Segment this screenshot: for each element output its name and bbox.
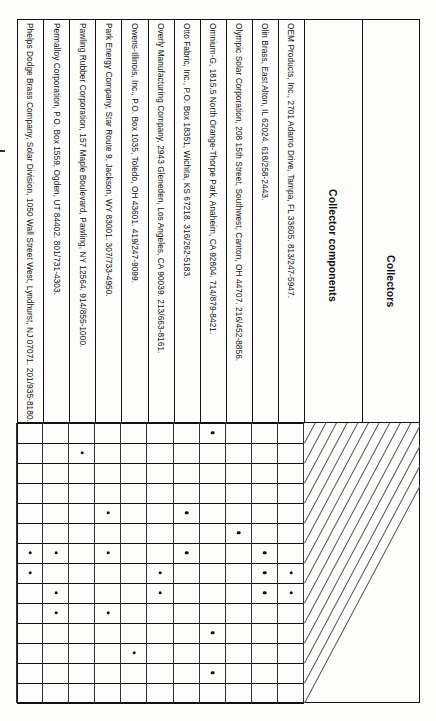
- grid-column-line: [17, 643, 304, 644]
- company-name-and-address: Otto Fabric, Inc., P.O. Box 18351, Wichi…: [182, 19, 192, 278]
- matrix-mark-dot: [28, 571, 31, 574]
- table-row: Pawling Rubber Corporation, 157 Maple Bo…: [69, 19, 95, 423]
- matrix-mark-dot: [159, 571, 162, 574]
- matrix-mark-dot: [81, 451, 84, 454]
- grid-row-line: [68, 423, 69, 703]
- company-name-and-address: Pawling Rubber Corporation, 157 Maple Bo…: [78, 19, 88, 347]
- matrix-mark-dot: [237, 531, 240, 534]
- grid-column-line: [17, 463, 304, 464]
- diagonal-column-headers: reflectors, Fresnel lenses, heliostatsse…: [304, 423, 420, 703]
- matrix-mark-dot: [159, 591, 162, 594]
- table-row: OEM Products, Inc., 2701 Adamo Drive, Ta…: [278, 19, 304, 423]
- matrix-mark-dot: [263, 591, 266, 594]
- matrix-mark-dot: [211, 431, 214, 434]
- scanned-page: Collectors Collector components OEM Prod…: [0, 0, 436, 721]
- matrix-mark-dot: [133, 651, 136, 654]
- grid-column-line: [17, 483, 304, 484]
- matrix-mark-dot: [54, 611, 57, 614]
- table-row: Olin Brass, East Alton, IL 62024. 618/25…: [252, 19, 278, 423]
- grid-column-line: [17, 663, 304, 664]
- grid-row-line: [199, 423, 200, 703]
- table-row: Park Energy Company, Star Route 9, Jacks…: [95, 19, 121, 423]
- grid-row-line: [42, 423, 43, 703]
- matrix-mark-dot: [107, 511, 110, 514]
- matrix-mark-dot: [289, 571, 292, 574]
- company-name-and-address: Olin Brass, East Alton, IL 62024. 618/25…: [260, 19, 270, 200]
- table-row: Phelps Dodge Brass Company, Solar Divisi…: [17, 19, 43, 423]
- collector-components-matrix-table: Collectors Collector components OEM Prod…: [8, 11, 428, 711]
- grid-row-line: [225, 423, 226, 703]
- table-row: Owens-Illinois, Inc., P.O. Box 1035, Tol…: [121, 19, 147, 423]
- grid-column-line: [17, 523, 304, 524]
- table-row: Otto Fabric, Inc., P.O. Box 18351, Wichi…: [174, 19, 200, 423]
- matrix-mark-dot: [211, 631, 214, 634]
- header-collectors-label: Collectors: [386, 255, 398, 307]
- company-row-list: OEM Products, Inc., 2701 Adamo Drive, Ta…: [17, 19, 304, 423]
- grid-row-line: [146, 423, 147, 703]
- grid-column-line: [17, 703, 304, 704]
- matrix-mark-dot: [263, 551, 266, 554]
- grid-column-line: [17, 683, 304, 684]
- grid-column-line: [17, 583, 304, 584]
- header-collector-components-label: Collector components: [328, 189, 340, 302]
- grid-row-line: [303, 423, 304, 703]
- matrix-mark-dot: [263, 571, 266, 574]
- grid-column-line: [17, 623, 304, 624]
- matrix-mark-dot: [107, 551, 110, 554]
- company-name-and-address: Overly Manufacturing Company, 2943 Glene…: [156, 19, 166, 353]
- grid-row-line: [120, 423, 121, 703]
- company-name-and-address: Olympic Solar Corporation, 208 15th Stre…: [234, 19, 244, 361]
- grid-column-line: [17, 563, 304, 564]
- grid-row-line: [173, 423, 174, 703]
- company-name-and-address: OEM Products, Inc., 2701 Adamo Drive, Ta…: [286, 19, 296, 298]
- grid-column-line: [17, 423, 304, 424]
- matrix-grid: [17, 423, 304, 703]
- diagonal-rule-line: [304, 423, 420, 583]
- grid-column-line: [17, 543, 304, 544]
- company-name-and-address: Omnium-G, 1815.5 North Orange-Thorpe Par…: [208, 19, 218, 334]
- grid-column-line: [17, 443, 304, 444]
- matrix-mark-dot: [54, 591, 57, 594]
- grid-row-line: [277, 423, 278, 703]
- grid-column-line: [17, 503, 304, 504]
- table-row: Omnium-G, 1815.5 North Orange-Thorpe Par…: [200, 19, 226, 423]
- matrix-mark-dot: [107, 611, 110, 614]
- matrix-mark-dot: [185, 511, 188, 514]
- company-name-and-address: Permalloy Corporation, P.O. Box 1559, Og…: [52, 19, 62, 295]
- matrix-mark-dot: [289, 591, 292, 594]
- header-collectors: Collectors: [362, 19, 420, 423]
- page-edge-tick: [0, 150, 5, 152]
- grid-row-line: [16, 423, 17, 703]
- matrix-mark-dot: [54, 551, 57, 554]
- matrix-mark-dot: [28, 551, 31, 554]
- company-name-and-address: Park Energy Company, Star Route 9, Jacks…: [104, 19, 114, 297]
- diagonal-rule-line: [304, 423, 420, 543]
- rotated-table-wrapper: Collectors Collector components OEM Prod…: [8, 11, 428, 711]
- company-name-and-address: Phelps Dodge Brass Company, Solar Divisi…: [25, 19, 35, 422]
- corner-header-cells: Collectors Collector components: [304, 19, 420, 423]
- diagonal-rule-line: [304, 423, 420, 703]
- grid-row-line: [251, 423, 252, 703]
- matrix-mark-dot: [185, 551, 188, 554]
- header-collector-components: Collector components: [304, 19, 362, 423]
- grid-column-line: [17, 603, 304, 604]
- table-row: Overly Manufacturing Company, 2943 Glene…: [148, 19, 174, 423]
- matrix-mark-dot: [211, 671, 214, 674]
- table-row: Permalloy Corporation, P.O. Box 1559, Og…: [43, 19, 69, 423]
- grid-row-line: [94, 423, 95, 703]
- table-row: Olympic Solar Corporation, 208 15th Stre…: [226, 19, 252, 423]
- company-name-and-address: Owens-Illinois, Inc., P.O. Box 1035, Tol…: [130, 19, 140, 283]
